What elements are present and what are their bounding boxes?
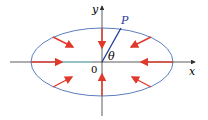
x-axis-label: x: [189, 65, 196, 78]
angle-label: θ: [108, 50, 115, 63]
origin-label: 0: [91, 64, 97, 75]
y-axis-label: y: [91, 3, 99, 16]
ellipse-diagram: y x P θ 0: [0, 0, 208, 120]
point-label: P: [120, 14, 129, 27]
